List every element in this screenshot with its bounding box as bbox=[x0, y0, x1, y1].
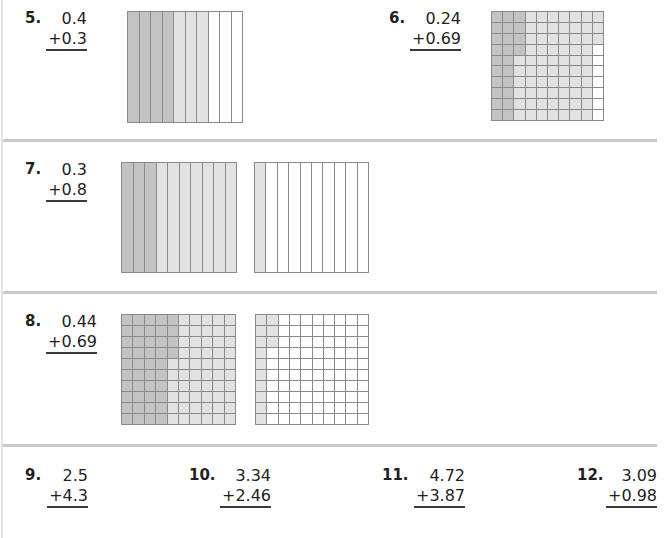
model-cell bbox=[145, 392, 155, 402]
model-cell bbox=[267, 326, 277, 336]
model-cell bbox=[156, 326, 166, 336]
model-cell bbox=[358, 370, 368, 380]
model-cell bbox=[133, 337, 143, 347]
problem-number: 6. bbox=[389, 9, 405, 27]
model-cell bbox=[324, 359, 334, 369]
model-cell bbox=[213, 414, 223, 424]
model-cell bbox=[526, 56, 536, 66]
model-cell bbox=[256, 337, 266, 347]
model-cell bbox=[503, 66, 513, 76]
model-cell bbox=[267, 359, 277, 369]
addend-top: 3.34 bbox=[220, 466, 271, 486]
model-cell bbox=[559, 99, 569, 109]
model-cell bbox=[122, 403, 132, 413]
model-cell bbox=[168, 326, 178, 336]
model-cell bbox=[209, 12, 220, 122]
model-cell bbox=[537, 77, 547, 87]
model-cell bbox=[156, 348, 166, 358]
model-cell bbox=[548, 77, 558, 87]
model-cell bbox=[168, 163, 179, 272]
model-cell bbox=[190, 403, 200, 413]
model-cell bbox=[570, 77, 580, 87]
model-cell bbox=[190, 359, 200, 369]
model-cell bbox=[301, 315, 311, 325]
model-cell bbox=[537, 12, 547, 22]
model-cell bbox=[503, 77, 513, 87]
model-cell bbox=[526, 66, 536, 76]
model-cell bbox=[266, 163, 276, 272]
model-cell bbox=[202, 392, 212, 402]
model-cell bbox=[537, 34, 547, 44]
model-cell bbox=[290, 359, 300, 369]
model-cell bbox=[582, 66, 592, 76]
model-cell bbox=[290, 392, 300, 402]
model-cell bbox=[289, 163, 299, 272]
model-cell bbox=[179, 337, 189, 347]
model-cell bbox=[570, 88, 580, 98]
model-cell bbox=[548, 23, 558, 33]
model-cell bbox=[313, 381, 323, 391]
model-cell bbox=[492, 45, 502, 55]
hundredths-model bbox=[491, 11, 604, 121]
model-cell bbox=[526, 34, 536, 44]
model-cell bbox=[503, 12, 513, 22]
model-cell bbox=[313, 392, 323, 402]
addend-top: 0.44 bbox=[46, 312, 97, 332]
model-cell bbox=[570, 66, 580, 76]
model-cell bbox=[202, 381, 212, 391]
model-cell bbox=[313, 348, 323, 358]
problem-number: 9. bbox=[25, 466, 41, 484]
model-cell bbox=[145, 326, 155, 336]
model-cell bbox=[503, 23, 513, 33]
model-cell bbox=[526, 12, 536, 22]
model-cell bbox=[313, 337, 323, 347]
model-cell bbox=[190, 370, 200, 380]
model-cell bbox=[203, 163, 214, 272]
problem-number: 8. bbox=[25, 312, 41, 330]
model-cell bbox=[548, 56, 558, 66]
model-cell bbox=[220, 12, 231, 122]
model-cell bbox=[324, 337, 334, 347]
model-cell bbox=[168, 403, 178, 413]
model-cell bbox=[133, 403, 143, 413]
model-cell bbox=[570, 12, 580, 22]
model-cell bbox=[514, 77, 524, 87]
model-cell bbox=[179, 348, 189, 358]
model-cell bbox=[335, 326, 345, 336]
addend-bottom: +0.3 bbox=[46, 29, 87, 51]
model-cell bbox=[548, 99, 558, 109]
addition-stack: 3.34 +2.46 bbox=[220, 466, 271, 508]
model-cell bbox=[133, 370, 143, 380]
model-cell bbox=[358, 359, 368, 369]
model-cell bbox=[548, 110, 558, 120]
model-cell bbox=[492, 110, 502, 120]
model-cell bbox=[279, 370, 289, 380]
model-cell bbox=[290, 370, 300, 380]
section-divider bbox=[3, 291, 657, 294]
model-cell bbox=[358, 315, 368, 325]
model-cell bbox=[324, 403, 334, 413]
model-cell bbox=[179, 359, 189, 369]
model-cell bbox=[202, 403, 212, 413]
section-divider bbox=[3, 444, 657, 447]
model-cell bbox=[503, 99, 513, 109]
model-cell bbox=[168, 392, 178, 402]
addend-top: 0.24 bbox=[410, 9, 461, 29]
model-cell bbox=[122, 348, 132, 358]
model-cell bbox=[145, 370, 155, 380]
model-cell bbox=[213, 392, 223, 402]
model-cell bbox=[279, 348, 289, 358]
model-cell bbox=[548, 34, 558, 44]
model-cell bbox=[514, 56, 524, 66]
model-cell bbox=[593, 56, 603, 66]
model-cell bbox=[514, 99, 524, 109]
model-cell bbox=[190, 326, 200, 336]
model-cell bbox=[548, 88, 558, 98]
addition-stack: 4.72 +3.87 bbox=[414, 466, 465, 508]
addend-top: 2.5 bbox=[47, 466, 88, 486]
model-cell bbox=[593, 12, 603, 22]
model-cell bbox=[133, 381, 143, 391]
model-cell bbox=[358, 163, 368, 272]
model-cell bbox=[163, 12, 174, 122]
model-cell bbox=[213, 326, 223, 336]
